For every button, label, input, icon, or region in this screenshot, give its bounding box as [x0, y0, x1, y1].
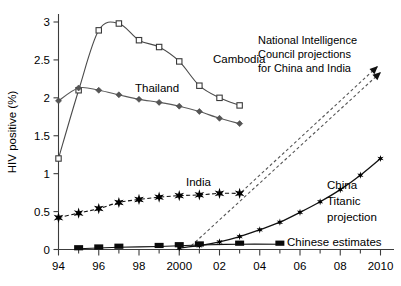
y-tick-label: 1: [44, 168, 50, 180]
data-point-marker: [74, 245, 83, 250]
y-tick-label: 1.5: [34, 130, 50, 142]
annotation-nic-line2: Council projections: [258, 48, 351, 60]
x-tick-label: 08: [334, 260, 347, 272]
x-tick-label: 94: [52, 260, 65, 272]
data-point-marker: [155, 243, 164, 248]
data-point-marker: [114, 244, 123, 249]
y-tick-label: 2.5: [34, 54, 50, 66]
series-label-china-line2: Titanic: [327, 195, 361, 207]
x-tick-label: 2000: [166, 260, 192, 272]
data-point-marker: [156, 44, 161, 49]
x-tick-label: 96: [92, 260, 105, 272]
data-point-marker: [275, 241, 284, 246]
y-tick-label: 2: [44, 92, 50, 104]
data-point-marker: [56, 156, 61, 161]
y-tick-label: 0: [44, 244, 50, 256]
series-label-chinese-estimates: Chinese estimates: [287, 236, 382, 248]
x-tick-label: 04: [253, 260, 266, 272]
data-point-marker: [116, 21, 121, 26]
series-label-china-line3: projection: [327, 211, 377, 223]
data-point-marker: [235, 241, 244, 246]
annotation-nic-line3: for China and India: [258, 62, 352, 74]
annotation-nic-line1: National Intelligence: [258, 34, 357, 46]
x-tick-label: 2010: [368, 260, 394, 272]
series-label-india: India: [186, 176, 212, 188]
data-point-marker: [136, 38, 141, 43]
data-point-marker: [237, 103, 242, 108]
x-tick-label: 06: [294, 260, 307, 272]
data-point-marker: [96, 28, 101, 33]
series-label-china-line1: China: [327, 179, 358, 191]
series-label-thailand: Thailand: [135, 82, 179, 94]
y-axis-title: HIV positive (%): [6, 91, 18, 174]
data-point-marker: [197, 83, 202, 88]
data-point-marker: [195, 241, 204, 246]
data-point-marker: [177, 59, 182, 64]
x-tick-label: 98: [133, 260, 146, 272]
y-tick-label: 3: [44, 16, 50, 28]
data-point-marker: [217, 95, 222, 100]
x-axis-tick-labels: 9496982000020406082010: [52, 260, 393, 272]
x-tick-label: 02: [213, 260, 226, 272]
data-point-marker: [175, 242, 184, 247]
y-tick-label: 0.5: [34, 206, 50, 218]
data-point-marker: [94, 244, 103, 249]
chart-canvas: 00.511.522.53 9496982000020406082010 HIV…: [0, 0, 401, 286]
hiv-prevalence-chart: 00.511.522.53 9496982000020406082010 HIV…: [0, 0, 401, 286]
